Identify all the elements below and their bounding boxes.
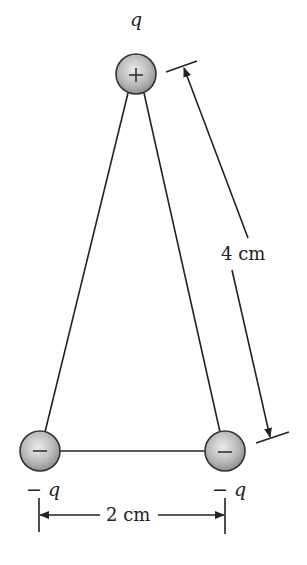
charge-bottom-right xyxy=(205,431,245,471)
charge-bottom-left xyxy=(20,431,60,471)
label-side-length: 4 cm xyxy=(219,243,267,264)
triangle-lines xyxy=(45,93,220,451)
charge-diagram: q − q − q 4 cm 2 cm xyxy=(0,0,307,565)
charge-top xyxy=(116,54,156,94)
label-bottom-right-charge: − q xyxy=(212,478,246,500)
label-top-charge: q xyxy=(130,8,142,30)
label-bottom-left-charge: − q xyxy=(26,478,60,500)
label-base-length: 2 cm xyxy=(104,504,152,525)
